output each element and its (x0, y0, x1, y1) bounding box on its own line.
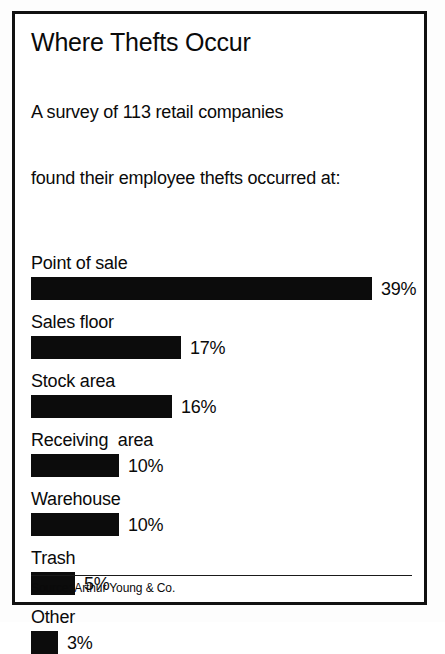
bar-group: Warehouse10% (31, 488, 414, 536)
chart-subtitle-line-1: A survey of 113 retail companies (31, 101, 414, 123)
bar-value-label: 10% (128, 514, 163, 536)
bar-category-label: Stock area (31, 370, 414, 392)
bar-group: Other3% (31, 606, 414, 654)
bar-category-label: Other (31, 606, 414, 628)
bar-row: 3% (31, 631, 414, 654)
bar-value-label: 10% (128, 455, 163, 477)
bar-fill (31, 395, 172, 418)
bar-group: Stock area16% (31, 370, 414, 418)
source-block: Source: Arthur Young & Co. (31, 575, 412, 596)
bar-group: Sales floor17% (31, 311, 414, 359)
bar-row: 17% (31, 336, 414, 359)
bar-value-label: 16% (181, 396, 216, 418)
bar-category-label: Trash (31, 547, 414, 569)
bar-category-label: Receiving area (31, 429, 414, 451)
bar-value-label: 3% (67, 632, 93, 654)
source-divider (31, 575, 412, 576)
bar-row: 16% (31, 395, 414, 418)
bar-row: 10% (31, 454, 414, 477)
source-label: Source: Arthur Young & Co. (31, 581, 412, 596)
bar-fill (31, 513, 119, 536)
bar-group: Point of sale39% (31, 252, 414, 300)
chart-title: Where Thefts Occur (31, 27, 414, 57)
bar-category-label: Point of sale (31, 252, 414, 274)
bar-category-label: Sales floor (31, 311, 414, 333)
bar-fill (31, 631, 58, 654)
bar-category-label: Warehouse (31, 488, 414, 510)
bar-fill (31, 336, 181, 359)
bar-row: 39% (31, 277, 414, 300)
chart-subtitle-line-2: found their employee thefts occurred at: (31, 167, 414, 189)
chart-content: Where Thefts Occur A survey of 113 retai… (15, 14, 424, 602)
chart-subtitle: A survey of 113 retail companies found t… (31, 57, 414, 233)
chart-frame: Where Thefts Occur A survey of 113 retai… (12, 11, 427, 605)
bar-row: 10% (31, 513, 414, 536)
bar-value-label: 17% (190, 337, 225, 359)
bar-fill (31, 277, 372, 300)
bar-value-label: 39% (381, 278, 416, 300)
bar-group: Receiving area10% (31, 429, 414, 477)
bar-fill (31, 454, 119, 477)
